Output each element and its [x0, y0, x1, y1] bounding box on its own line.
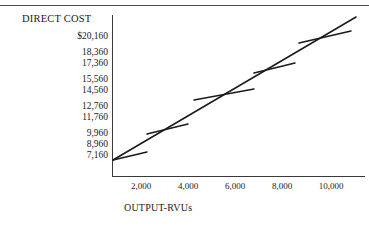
y-tick-label: 7,160	[3, 150, 111, 160]
y-tick-label: 8,960	[3, 139, 111, 149]
y-tick-label: 15,560	[3, 74, 111, 84]
y-tick-label: $20,160	[3, 31, 111, 41]
y-tick-label: 9,960	[3, 128, 111, 138]
y-tick-label: 11,760	[3, 112, 111, 122]
x-tick-label: 8,000	[272, 181, 292, 191]
x-tick-label: 10,000	[319, 181, 344, 191]
regression-line	[113, 17, 356, 160]
y-tick-label: 12,760	[3, 101, 111, 111]
y-tick-label: 17,360	[3, 58, 111, 68]
x-axis-title: OUTPUT-RVUs	[124, 202, 192, 213]
step-cost-segments	[113, 31, 351, 160]
x-tick-label: 2,000	[131, 181, 151, 191]
y-axis-line	[112, 15, 113, 177]
y-tick-label: 18,360	[3, 47, 111, 57]
y-tick-label: 14,560	[3, 85, 111, 95]
x-tick-label: 6,000	[225, 181, 245, 191]
x-tick-label: 4,000	[178, 181, 198, 191]
x-axis-line	[112, 176, 365, 177]
y-axis-tick-labels: $20,160 18,360 17,360 15,560 14,560 12,7…	[0, 0, 111, 232]
